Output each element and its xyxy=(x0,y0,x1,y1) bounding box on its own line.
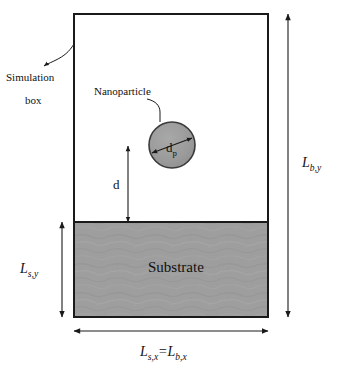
box-width-subscript1: s,x xyxy=(148,352,158,362)
simulation-box-label-line1: Simulation xyxy=(6,72,54,83)
substrate-height-label: Ls,y xyxy=(20,262,38,279)
box-height-label: Lb,y xyxy=(302,156,321,173)
particle-diameter-subscript: p xyxy=(173,148,177,158)
simulation-box-leader xyxy=(44,44,74,66)
box-height-subscript: b,y xyxy=(310,163,321,173)
box-width-subscript2: b,x xyxy=(175,352,186,362)
simulation-box-label-line2: box xyxy=(25,95,42,106)
box-width-equals: = xyxy=(158,344,167,359)
figure-canvas: Simulation box Nanoparticle dp d Lb,y Ls… xyxy=(0,0,347,376)
box-width-base1: L xyxy=(140,344,148,359)
box-height-base: L xyxy=(302,155,310,170)
nanoparticle-label: Nanoparticle xyxy=(94,86,151,97)
substrate-label: Substrate xyxy=(148,260,204,275)
substrate-height-subscript: s,y xyxy=(28,269,38,279)
diagram-vector-layer xyxy=(0,0,347,376)
box-width-label: Ls,x=Lb,x xyxy=(140,345,187,362)
substrate-height-base: L xyxy=(20,261,28,276)
particle-diameter-label: dp xyxy=(166,141,177,157)
gap-distance-label: d xyxy=(113,178,120,191)
